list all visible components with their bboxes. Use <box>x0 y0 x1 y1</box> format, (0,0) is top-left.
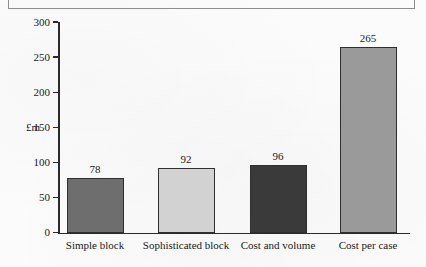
y-tick-label-50: 50 <box>16 192 50 203</box>
bar-cost-and-volume <box>250 165 307 232</box>
y-tick-label-100: 100 <box>16 157 50 168</box>
bar-sophisticated-block <box>158 168 215 233</box>
y-tick-100 <box>53 162 58 163</box>
y-tick-200 <box>53 92 58 93</box>
y-tick-250 <box>53 56 58 57</box>
y-tick-label-250: 250 <box>16 52 50 63</box>
bar-chart-figure: FOR DIFFERENT ESTIMATORS £m 050100150200… <box>0 0 426 267</box>
category-label-cost-per-case: Cost per case <box>308 239 426 251</box>
bar-value-label-simple-block: 78 <box>65 164 125 175</box>
y-tick-300 <box>53 21 58 22</box>
y-tick-0 <box>53 232 58 233</box>
x-axis-line <box>58 233 410 235</box>
y-tick-label-200: 200 <box>16 87 50 98</box>
y-tick-150 <box>53 127 58 128</box>
y-tick-label-150: 150 <box>16 122 50 133</box>
bar-value-label-sophisticated-block: 92 <box>156 154 216 165</box>
bar-value-label-cost-and-volume: 96 <box>248 151 308 162</box>
y-tick-label-300: 300 <box>16 17 50 28</box>
y-axis-line <box>58 22 60 234</box>
y-tick-label-0: 0 <box>16 227 50 238</box>
bar-cost-per-case <box>340 47 397 233</box>
plot-area: £m 050100150200250300 789296265 Simple b… <box>0 0 426 267</box>
y-tick-50 <box>53 197 58 198</box>
bar-value-label-cost-per-case: 265 <box>338 33 398 44</box>
bar-simple-block <box>67 178 124 233</box>
